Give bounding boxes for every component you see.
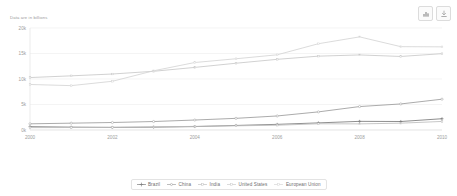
data-point-marker xyxy=(400,103,402,105)
legend-marker-icon xyxy=(136,182,145,187)
legend-label: Brazil xyxy=(148,182,160,187)
plot-area: 0k5k10k15k20k200020022004200620082010 xyxy=(0,22,457,152)
x-axis-tick-label: 2008 xyxy=(354,135,365,140)
legend-item-european-union[interactable]: European Union xyxy=(274,182,320,187)
data-point-marker xyxy=(400,46,402,48)
data-point-marker xyxy=(441,53,443,55)
legend-marker-icon xyxy=(274,182,283,187)
data-point-marker xyxy=(194,126,196,128)
data-point-marker xyxy=(112,127,114,129)
data-point-marker xyxy=(29,84,31,86)
data-point-marker xyxy=(29,123,31,125)
legend-label: China xyxy=(179,182,192,187)
legend-item-brazil[interactable]: Brazil xyxy=(136,182,160,187)
legend-label: United States xyxy=(239,182,268,187)
data-point-marker xyxy=(153,120,155,122)
x-axis-tick-label: 2002 xyxy=(107,135,118,140)
x-axis-tick-label: 2006 xyxy=(272,135,283,140)
series-line-united-states xyxy=(30,54,442,78)
data-point-marker xyxy=(235,58,237,60)
legend-label: European Union xyxy=(286,182,321,187)
legend-marker-icon xyxy=(198,182,207,187)
y-axis-tick-label: 0k xyxy=(21,128,27,133)
data-point-marker xyxy=(153,70,155,72)
data-point-marker xyxy=(29,127,31,129)
data-point-marker xyxy=(359,123,361,125)
chart-type-icon[interactable] xyxy=(418,6,433,21)
chart-card: Data are in billions 0k5k10k15k20k200020… xyxy=(0,0,457,196)
y-axis-tick-label: 5k xyxy=(21,102,27,107)
data-point-marker xyxy=(194,67,196,69)
data-point-marker xyxy=(400,56,402,58)
data-point-marker xyxy=(235,125,237,127)
download-icon[interactable] xyxy=(436,6,451,21)
data-point-marker xyxy=(318,123,320,125)
chart-subtitle: Data are in billions xyxy=(10,15,47,20)
data-point-marker xyxy=(70,75,72,77)
x-axis-tick-label: 2010 xyxy=(437,135,448,140)
data-point-marker xyxy=(235,117,237,119)
data-point-marker xyxy=(194,62,196,64)
legend-item-india[interactable]: India xyxy=(198,182,220,187)
series-line-european-union xyxy=(30,37,442,86)
data-point-marker xyxy=(359,54,361,56)
data-point-marker xyxy=(359,36,361,38)
legend-marker-icon xyxy=(167,182,176,187)
legend-item-united-states[interactable]: United States xyxy=(227,182,267,187)
data-point-marker xyxy=(400,122,402,124)
legend-label: India xyxy=(210,182,220,187)
y-axis-tick-label: 10k xyxy=(19,77,27,82)
data-point-marker xyxy=(276,124,278,126)
data-point-marker xyxy=(276,59,278,61)
data-point-marker xyxy=(441,121,443,123)
chart-toolbar xyxy=(418,6,451,21)
data-point-marker xyxy=(318,43,320,45)
data-point-marker xyxy=(276,115,278,117)
series-line-china xyxy=(30,99,442,124)
data-point-marker xyxy=(112,73,114,75)
data-point-marker xyxy=(441,46,443,48)
y-axis-tick-label: 20k xyxy=(19,26,27,31)
legend-item-china[interactable]: China xyxy=(167,182,191,187)
data-point-marker xyxy=(441,117,444,120)
data-point-marker xyxy=(276,54,278,56)
data-point-marker xyxy=(318,55,320,57)
data-point-marker xyxy=(194,119,196,121)
data-point-marker xyxy=(441,98,443,100)
data-point-marker xyxy=(112,80,114,82)
data-point-marker xyxy=(235,62,237,64)
y-axis-tick-label: 15k xyxy=(19,51,27,56)
data-point-marker xyxy=(70,122,72,124)
data-point-marker xyxy=(317,111,319,113)
data-point-marker xyxy=(70,85,72,87)
data-point-marker xyxy=(70,127,72,129)
data-point-marker xyxy=(153,126,155,128)
data-point-marker xyxy=(359,105,361,107)
legend-marker-icon xyxy=(227,182,236,187)
chart-legend: BrazilChinaIndiaUnited StatesEuropean Un… xyxy=(130,179,326,190)
x-axis-tick-label: 2000 xyxy=(25,135,36,140)
data-point-marker xyxy=(29,77,31,79)
data-point-marker xyxy=(111,121,113,123)
data-point-marker xyxy=(358,120,361,123)
x-axis-tick-label: 2004 xyxy=(190,135,201,140)
line-chart-svg: 0k5k10k15k20k200020022004200620082010 xyxy=(0,22,457,152)
